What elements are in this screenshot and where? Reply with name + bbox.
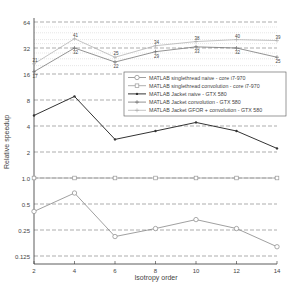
y-tick-label: 64 — [23, 20, 30, 26]
x-tick-label: 4 — [73, 268, 77, 274]
data-label: 32 — [73, 50, 79, 55]
data-label: 33 — [194, 49, 200, 54]
y-tick-label: 0.25 — [18, 228, 30, 234]
data-label: 25 — [113, 51, 119, 56]
data-label: 34 — [154, 40, 160, 45]
x-axis-label: Isotropy order — [134, 274, 178, 282]
speedup-chart: 0.1250.250.51.02481632642468101214 17322… — [0, 0, 291, 294]
series-0 — [32, 191, 279, 249]
y-tick-label: 2 — [27, 150, 31, 156]
data-label: 39 — [275, 35, 281, 40]
y-axis-label: Relative speedup — [3, 115, 11, 169]
legend-item: MATLAB Jacket GFOR + convolution - GTX 5… — [128, 107, 262, 113]
data-label: 21 — [32, 58, 38, 63]
y-tick-label: 16 — [23, 72, 30, 78]
series-lines — [32, 37, 279, 249]
y-tick-label: 0.125 — [15, 254, 31, 260]
y-tick-label: 0.5 — [22, 202, 31, 208]
legend-label: MATLAB singlethread naive - core i7-970 — [149, 75, 246, 81]
y-tick-label: 1.0 — [22, 176, 31, 182]
data-label: 40 — [235, 34, 241, 39]
legend-label: MATLAB singlethread convolution - core i… — [149, 83, 260, 89]
axes: 0.1250.250.51.02481632642468101214 — [15, 18, 281, 274]
x-tick-label: 12 — [233, 268, 240, 274]
legend: MATLAB singlethread naive - core i7-970M… — [124, 72, 286, 116]
y-tick-label: 32 — [23, 46, 30, 52]
data-label: 17 — [32, 74, 38, 79]
data-label: 29 — [154, 54, 160, 59]
y-tick-label: 4 — [27, 124, 31, 130]
data-label: 22 — [113, 64, 119, 69]
data-label: 32 — [235, 50, 241, 55]
x-tick-label: 10 — [193, 268, 200, 274]
data-label: 38 — [194, 36, 200, 41]
x-tick-label: 2 — [32, 268, 36, 274]
legend-label: MATLAB Jacket GFOR + convolution - GTX 5… — [149, 107, 262, 113]
data-label: 25 — [275, 59, 281, 64]
legend-label: MATLAB Jacket convolution - GTX 580 — [149, 99, 241, 105]
x-tick-label: 14 — [274, 268, 281, 274]
series-3 — [32, 45, 279, 74]
legend-label: MATLAB Jacket naive - GTX 580 — [149, 91, 227, 97]
data-label: 41 — [73, 33, 79, 38]
series-1 — [32, 176, 279, 180]
y-tick-label: 8 — [27, 98, 31, 104]
x-tick-label: 6 — [113, 268, 117, 274]
